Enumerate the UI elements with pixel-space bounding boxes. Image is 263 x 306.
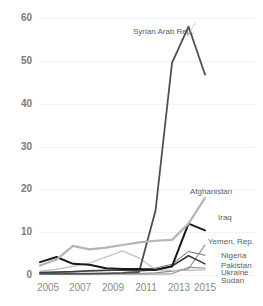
series-label: Nigeria <box>221 251 246 260</box>
series-line <box>40 198 205 266</box>
series-label: Yemen, Rep. <box>208 237 254 246</box>
series-label: Sudan <box>221 276 244 285</box>
series-label: Syrian Arab Rep. <box>133 27 193 36</box>
series-label: Afghanistan <box>190 187 232 196</box>
series-line <box>40 27 205 274</box>
series-label: Iraq <box>218 213 232 222</box>
line-chart: 0102030405060 200520072009201120132015 S… <box>0 0 263 306</box>
